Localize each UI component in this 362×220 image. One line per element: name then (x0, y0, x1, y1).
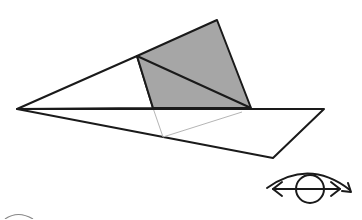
left-triangle-flap (17, 56, 153, 109)
eye-rotate-icon (267, 173, 351, 203)
lower-sheet (17, 109, 324, 158)
folded-gray-flap (137, 20, 251, 108)
folding-diagram (0, 0, 362, 219)
partial-circle-icon (5, 215, 33, 220)
